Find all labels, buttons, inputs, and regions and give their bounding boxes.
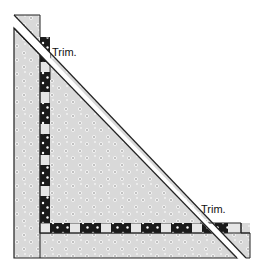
trim-label-bottom: Trim. bbox=[201, 204, 226, 215]
trim-label-top: Trim. bbox=[52, 47, 77, 58]
quilt-trim-diagram bbox=[0, 0, 264, 274]
